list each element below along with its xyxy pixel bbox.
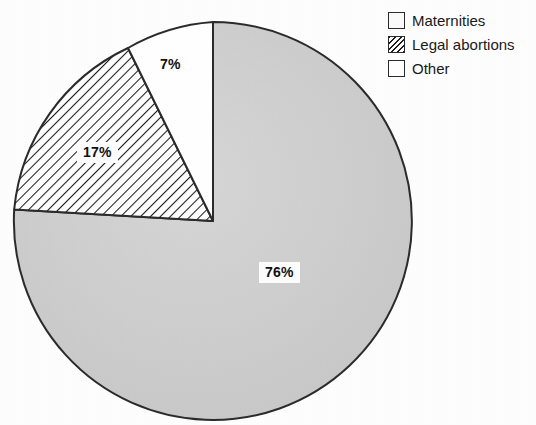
legend-item-legal-abortions: Legal abortions bbox=[388, 32, 536, 56]
pie-chart-screenshot: 76% 17% 7% Maternities Legal abortions O… bbox=[0, 0, 536, 425]
legend-label-legal-abortions: Legal abortions bbox=[412, 37, 515, 52]
slice-value-label-legal-abortions: 17% bbox=[77, 142, 118, 163]
chart-legend: Maternities Legal abortions Other bbox=[388, 8, 536, 80]
legend-item-maternities: Maternities bbox=[388, 8, 536, 32]
legend-item-other: Other bbox=[388, 56, 536, 80]
legend-label-maternities: Maternities bbox=[412, 13, 485, 28]
slice-value-label-other: 7% bbox=[160, 57, 181, 71]
legend-label-other: Other bbox=[412, 61, 450, 76]
hatched-square-swatch-icon bbox=[388, 36, 405, 53]
gray-square-swatch-icon bbox=[388, 12, 405, 29]
slice-value-label-maternities: 76% bbox=[259, 262, 300, 283]
white-square-swatch-icon bbox=[388, 60, 405, 77]
